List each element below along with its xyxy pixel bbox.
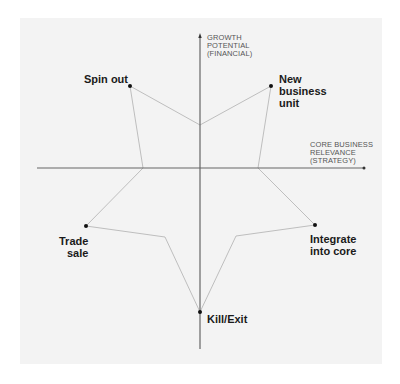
dot-trade-sale [84, 224, 88, 228]
diagram-canvas [0, 0, 400, 384]
label-kill-exit: Kill/Exit [207, 313, 247, 325]
horizontal-axis-label: CORE BUSINESS RELEVANCE (STRATEGY) [310, 141, 373, 165]
vertical-axis-arrow-icon [198, 33, 201, 38]
dot-spin-out [128, 84, 132, 88]
horizontal-axis-arrow-icon [363, 167, 366, 170]
dot-new-business-unit [269, 84, 273, 88]
dot-integrate-into-core [313, 223, 317, 227]
label-spin-out: Spin out [84, 73, 128, 85]
vertical-axis-label: GROWTH POTENTIAL (FINANCIAL) [207, 34, 252, 58]
label-new-business-unit: New business unit [279, 73, 327, 109]
dot-kill-exit [198, 310, 202, 314]
label-trade-sale: Trade sale [59, 235, 88, 259]
label-integrate-into-core: Integrate into core [310, 233, 356, 257]
